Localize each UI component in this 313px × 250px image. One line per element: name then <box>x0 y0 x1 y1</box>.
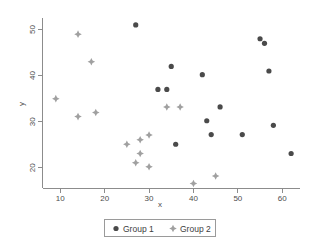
data-point <box>217 104 222 109</box>
series-1-points <box>133 22 294 156</box>
data-point <box>52 95 60 103</box>
legend-label-1: Group 1 <box>123 224 154 234</box>
data-point <box>145 163 153 171</box>
data-point <box>212 172 220 180</box>
data-point <box>204 118 209 123</box>
y-axis: 20304050 y <box>17 18 43 188</box>
data-point <box>262 41 267 46</box>
data-point <box>289 151 294 156</box>
data-point <box>145 131 153 139</box>
x-axis: 102030405060 x <box>43 189 301 210</box>
data-point <box>136 136 144 144</box>
data-point <box>123 140 131 148</box>
y-tick-label: 40 <box>28 71 37 80</box>
data-point <box>169 64 174 69</box>
x-tick-label: 10 <box>56 194 65 203</box>
x-tick-label: 30 <box>145 194 154 203</box>
x-axis-title: x <box>158 200 162 209</box>
y-axis-ticks: 20304050 <box>28 25 42 173</box>
x-tick-label: 50 <box>233 194 242 203</box>
data-point <box>88 58 96 66</box>
series-2-points <box>52 30 219 187</box>
legend: Group 1Group 2 <box>105 220 216 237</box>
x-tick-label: 20 <box>100 194 109 203</box>
legend-label-2: Group 2 <box>180 224 211 234</box>
data-point <box>92 109 100 117</box>
scatter-plot-figure: 20304050 y 102030405060 x Group 1Group 2 <box>0 0 313 250</box>
data-point <box>271 123 276 128</box>
data-point <box>132 159 140 167</box>
x-tick-label: 40 <box>189 194 198 203</box>
data-point <box>173 142 178 147</box>
plot-canvas: 20304050 y 102030405060 x Group 1Group 2 <box>0 0 313 250</box>
data-point <box>257 36 262 41</box>
data-point <box>164 87 169 92</box>
x-axis-ticks: 102030405060 <box>56 189 287 204</box>
data-point <box>176 103 184 111</box>
data-point <box>190 180 198 188</box>
data-point <box>209 132 214 137</box>
data-point-layer <box>52 22 294 187</box>
data-point <box>266 68 271 73</box>
y-tick-label: 20 <box>28 163 37 172</box>
data-point <box>74 30 82 38</box>
data-point <box>155 87 160 92</box>
data-point <box>240 132 245 137</box>
y-tick-label: 30 <box>28 117 37 126</box>
data-point <box>136 150 144 158</box>
y-tick-label: 50 <box>28 25 37 34</box>
legend-marker-1 <box>113 226 118 231</box>
data-point <box>200 72 205 77</box>
y-axis-title: y <box>17 102 26 106</box>
x-tick-label: 60 <box>278 194 287 203</box>
data-point <box>163 103 171 111</box>
data-point <box>133 22 138 27</box>
data-point <box>74 113 82 121</box>
